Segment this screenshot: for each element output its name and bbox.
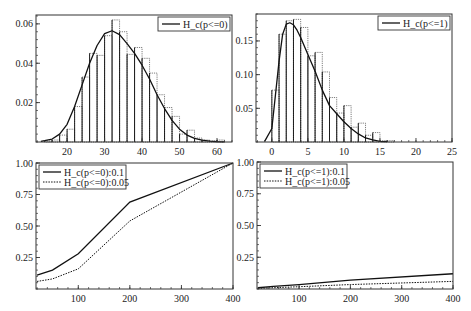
x-tick-label: 60: [212, 146, 222, 157]
x-tick-label: 10: [339, 146, 349, 157]
histogram-bar: [75, 107, 82, 142]
histogram-bar: [344, 106, 351, 142]
panel-histogram-p1: 0.050.100.150510152025H_c(p<=1): [236, 14, 458, 157]
x-tick-label: 20: [62, 146, 72, 157]
histogram-bar: [322, 72, 329, 142]
x-tick-label: 50: [175, 146, 185, 157]
y-tick-label: 1.00: [237, 157, 255, 168]
histogram-bar: [127, 54, 134, 142]
x-tick-label: 5: [305, 146, 310, 157]
x-tick-label: 15: [375, 146, 385, 157]
density-curve: [41, 31, 225, 142]
histogram-bar: [358, 123, 365, 142]
x-tick-label: 20: [411, 146, 421, 157]
y-tick-label: 0.50: [16, 221, 34, 232]
panel-histogram-p0: 0.020.040.062030405060H_c(p<=0): [16, 15, 233, 157]
x-tick-label: 300: [394, 293, 409, 304]
histogram-bar: [180, 134, 187, 142]
x-tick-label: 100: [71, 293, 86, 304]
histogram-bar: [82, 77, 89, 142]
y-tick-label: 0.04: [16, 58, 34, 69]
plot-frame: [36, 15, 232, 142]
histogram-bar: [60, 135, 67, 142]
histogram-bar: [150, 73, 157, 142]
x-tick-label: 200: [343, 293, 358, 304]
legend-label: H_c(p<=0): [183, 19, 228, 31]
legend: H_c(p<=0): [158, 17, 230, 31]
legend-label: H_c(p<=1):0.05: [285, 176, 350, 188]
y-tick-label: 0.75: [237, 188, 255, 199]
histogram-bar: [330, 98, 337, 142]
y-tick-label: 0.05: [236, 103, 254, 114]
y-tick-label: 0.25: [16, 252, 34, 263]
y-tick-label: 1.00: [16, 158, 34, 169]
x-tick-label: 300: [174, 293, 189, 304]
density-curve: [265, 23, 388, 142]
y-tick-label: 0.10: [236, 69, 254, 80]
y-tick-label: 0.02: [16, 97, 34, 108]
plot-frame: [256, 14, 452, 142]
histogram-bar: [293, 19, 300, 142]
histogram-bar: [97, 55, 104, 142]
legend-label: H_c(p<=1): [403, 18, 448, 30]
x-tick-label: 100: [292, 293, 307, 304]
panel-power-p1: 0.250.500.751.00100200300400H_c(p<=1):0.…: [237, 157, 461, 305]
y-tick-label: 0.25: [237, 252, 255, 263]
histogram-bar: [105, 36, 112, 142]
legend: H_c(p<=1):0.1H_c(p<=1):0.05: [260, 164, 350, 188]
x-tick-label: 400: [446, 293, 461, 304]
panel-power-p0: 0.250.500.751.00100200300400H_c(p<=0):0.…: [16, 158, 241, 305]
histogram-bar: [120, 32, 127, 142]
x-tick-label: 30: [100, 146, 110, 157]
figure: 0.020.040.062030405060H_c(p<=0) 0.050.10…: [0, 0, 471, 311]
x-tick-label: 40: [137, 146, 147, 157]
histogram-bar: [315, 52, 322, 142]
histogram-bar: [172, 116, 179, 142]
y-tick-label: 0.75: [16, 189, 34, 200]
histogram-bar: [67, 129, 74, 142]
x-tick-label: 25: [447, 146, 457, 157]
histogram-bar: [135, 47, 142, 142]
x-tick-label: 400: [226, 293, 241, 304]
series-line-0: [258, 274, 453, 288]
x-tick-label: 200: [122, 293, 137, 304]
y-tick-label: 0.06: [16, 18, 34, 29]
legend: H_c(p<=0):0.1H_c(p<=0):0.05: [39, 165, 129, 189]
y-tick-label: 0.15: [236, 35, 254, 46]
histogram-bar: [165, 108, 172, 142]
histogram-bar: [112, 20, 119, 142]
legend-label: H_c(p<=0):0.05: [64, 177, 129, 189]
y-tick-label: 0.50: [237, 220, 255, 231]
histogram-bar: [286, 21, 293, 142]
legend: H_c(p<=1): [378, 16, 450, 30]
x-tick-label: 0: [269, 146, 274, 157]
histogram-bar: [90, 53, 97, 142]
